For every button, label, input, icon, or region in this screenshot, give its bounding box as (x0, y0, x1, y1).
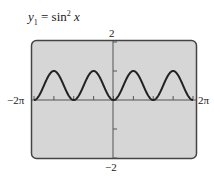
x-max-label: 2π (198, 94, 209, 106)
x-min-label: −2π (7, 94, 24, 106)
y-min-label: −2 (105, 161, 117, 173)
y-max-label: 2 (109, 27, 115, 39)
